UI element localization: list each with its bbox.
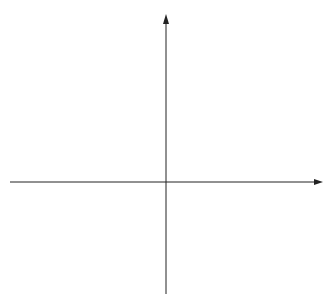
- y-axis-arrow-icon: [163, 14, 169, 24]
- deltoid-plot: [0, 0, 331, 305]
- chart-canvas: [0, 0, 331, 305]
- x-axis-arrow-icon: [314, 179, 323, 185]
